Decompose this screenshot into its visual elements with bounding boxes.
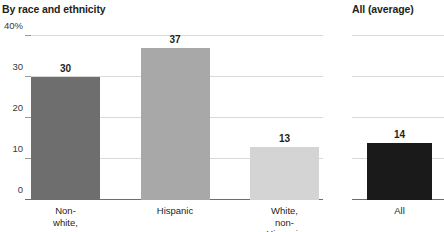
bar-value-label: 30 bbox=[60, 63, 71, 74]
bar-value-label: 13 bbox=[279, 133, 290, 144]
y-axis-label-20: 20 bbox=[12, 103, 23, 113]
category-label: White, non-Hispanic bbox=[266, 205, 302, 232]
right-plot-area: 14All bbox=[352, 36, 444, 200]
bar-value-label: 37 bbox=[169, 34, 180, 45]
left-panel-title: By race and ethnicity bbox=[2, 3, 106, 15]
bar[interactable]: 37Hispanic bbox=[141, 48, 210, 200]
bar[interactable]: 14All bbox=[367, 143, 432, 200]
category-label: All bbox=[394, 205, 405, 217]
category-label: Non-white, non-Hispanic bbox=[47, 205, 83, 232]
y-axis-label-10: 10 bbox=[12, 144, 23, 154]
gridline-20 bbox=[352, 117, 444, 118]
y-axis-label-0: 0 bbox=[18, 185, 23, 195]
y-axis-label-40: 40% bbox=[4, 21, 23, 31]
gridline-40 bbox=[352, 35, 444, 36]
bar[interactable]: 13White, non-Hispanic bbox=[250, 147, 319, 200]
bar-value-label: 14 bbox=[394, 129, 405, 140]
category-label: Hispanic bbox=[157, 205, 193, 217]
left-plot-area: 40%3020100 30Non-white, non-Hispanic37Hi… bbox=[31, 36, 323, 200]
bar[interactable]: 30Non-white, non-Hispanic bbox=[31, 77, 100, 200]
right-panel-title: All (average) bbox=[352, 3, 414, 15]
gridline-30 bbox=[352, 76, 444, 77]
y-axis-label-30: 30 bbox=[12, 62, 23, 72]
y-tick-mark-40 bbox=[25, 35, 31, 36]
chart-figure: By race and ethnicity All (average) 40%3… bbox=[0, 0, 444, 232]
